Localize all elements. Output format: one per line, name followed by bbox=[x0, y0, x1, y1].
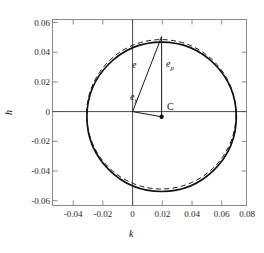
y-axis-title: h bbox=[3, 110, 14, 115]
figure-container: -0.04 -0.02 0 0.02 0.04 0.06 0.08 0.06 0… bbox=[0, 0, 264, 253]
vector-e bbox=[133, 37, 162, 112]
label-center-c: C bbox=[167, 101, 174, 112]
plot-frame bbox=[53, 20, 247, 206]
x-tick-label: -0.02 bbox=[94, 209, 113, 219]
label-e-p-sub: p bbox=[170, 64, 174, 72]
point-c-marker bbox=[159, 115, 163, 119]
y-tick-label: -0.06 bbox=[31, 196, 50, 206]
label-e: e bbox=[132, 59, 136, 70]
label-e-f: ef bbox=[130, 91, 136, 105]
y-tick-label: 0 bbox=[46, 107, 51, 117]
x-tick-label: 0.04 bbox=[184, 209, 200, 219]
y-tick-label: -0.02 bbox=[31, 136, 50, 146]
label-e-p: ep bbox=[166, 58, 174, 72]
y-tick-label: 0.06 bbox=[34, 18, 50, 28]
x-tick-label: 0 bbox=[130, 209, 135, 219]
x-axis-ticks bbox=[73, 20, 246, 206]
y-tick-label: -0.04 bbox=[31, 166, 50, 176]
x-tick-label: 0.06 bbox=[214, 209, 230, 219]
y-tick-label: 0.04 bbox=[34, 47, 50, 57]
x-axis-title: k bbox=[129, 228, 133, 239]
label-e-f-sub: f bbox=[134, 97, 136, 105]
vector-e-f bbox=[133, 112, 162, 117]
x-tick-label: 0.08 bbox=[239, 209, 255, 219]
y-tick-label: 0.02 bbox=[34, 77, 50, 87]
x-tick-label: -0.04 bbox=[64, 209, 83, 219]
x-tick-label: 0.02 bbox=[154, 209, 170, 219]
